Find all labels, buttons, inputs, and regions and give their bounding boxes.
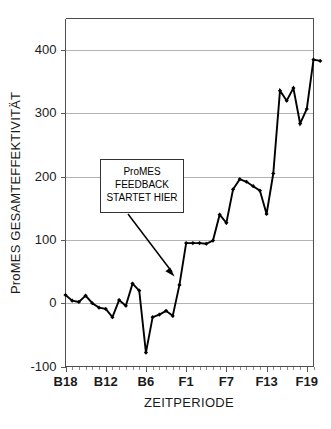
x-tick-label-F19: F19 [296, 374, 318, 389]
x-tick-label-F7: F7 [219, 374, 234, 389]
x-tick-label-F13: F13 [255, 374, 277, 389]
x-tick-label-B6: B6 [138, 374, 155, 389]
annotation-line-2: FEEDBACK [115, 179, 169, 190]
y-tick-label-0: 0 [49, 295, 56, 310]
x-axis-title: ZEITPERIODE [144, 395, 234, 410]
x-tick-label-F1: F1 [179, 374, 194, 389]
y-tick-label-400: 400 [35, 42, 57, 57]
y-tick-label-100: 100 [35, 232, 57, 247]
y-axis-title: ProMES GESAMTEFFEKTIVITÄT [8, 92, 23, 294]
x-tick-label-B18: B18 [54, 374, 78, 389]
chart-figure: -1000100200300400 B18B12B6F1F7F13F19 Pro… [0, 0, 331, 429]
y-tick-label-200: 200 [35, 169, 57, 184]
y-tick-label-300: 300 [35, 105, 57, 120]
annotation-line-1: ProMES [123, 166, 161, 177]
y-tick-label--100: -100 [30, 359, 56, 374]
promes-effectiveness-line-chart: -1000100200300400 B18B12B6F1F7F13F19 Pro… [0, 0, 331, 429]
x-tick-label-B12: B12 [94, 374, 118, 389]
annotation-line-3: STARTET HIER [106, 192, 177, 203]
